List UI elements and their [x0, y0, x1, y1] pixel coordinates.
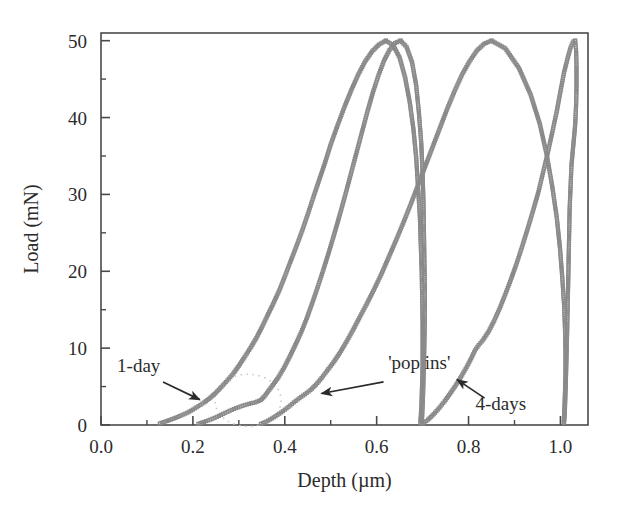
y-tick-label: 50 [68, 31, 87, 52]
y-tick-label: 30 [68, 184, 87, 205]
load-depth-plot: 0.00.20.40.60.81.001020304050Depth (µm)L… [0, 0, 617, 516]
x-axis-title: Depth (µm) [297, 469, 391, 492]
y-axis-title: Load (mN) [20, 184, 43, 273]
annotation-label-pop-ins: 'pop ins' [388, 352, 450, 373]
annotation-arrow-pop-ins [322, 382, 384, 394]
plot-frame [101, 33, 588, 425]
y-tick-label: 40 [68, 108, 87, 129]
x-tick-label: 0.0 [89, 436, 113, 457]
series-7 [563, 39, 578, 424]
x-tick-label: 0.8 [457, 436, 481, 457]
series-4 [259, 39, 493, 425]
x-tick-label: 0.4 [273, 436, 297, 457]
series-0 [158, 39, 387, 425]
annotation-arrow-1-day [163, 382, 200, 400]
x-tick-label: 0.2 [181, 436, 205, 457]
x-tick-label: 0.6 [365, 436, 389, 457]
annotation-arrow-4-days [457, 380, 485, 398]
y-tick-label: 0 [78, 415, 88, 436]
annotation-label-1-day: 1-day [117, 355, 161, 376]
x-tick-label: 1.0 [549, 436, 573, 457]
y-tick-label: 20 [68, 261, 87, 282]
y-tick-label: 10 [68, 338, 87, 359]
chart-page: 0.00.20.40.60.81.001020304050Depth (µm)L… [0, 0, 617, 516]
